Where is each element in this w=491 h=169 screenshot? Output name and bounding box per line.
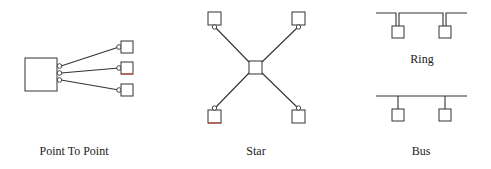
- star-hub: [249, 61, 262, 74]
- star-endpoint-top-left: [208, 12, 221, 25]
- star-link: [262, 27, 298, 62]
- link-bottom: [61, 80, 119, 90]
- bus-node: [439, 109, 451, 121]
- star-link: [215, 27, 249, 62]
- port-icon: [296, 106, 300, 110]
- star-endpoint-top-right: [292, 12, 305, 25]
- port-icon: [57, 71, 62, 76]
- link-top: [61, 47, 119, 66]
- point-to-point-topology: Point To Point: [25, 41, 133, 158]
- bus-label: Bus: [412, 144, 431, 158]
- port-icon: [212, 106, 216, 110]
- star-endpoint-bottom-left: [208, 110, 221, 123]
- topology-diagram: Point To Point Star Ring Bus: [0, 0, 491, 169]
- port-icon: [296, 25, 300, 29]
- bus-topology: Bus: [376, 96, 467, 158]
- star-topology: Star: [208, 12, 305, 158]
- link-middle: [61, 68, 119, 73]
- bus-node: [392, 109, 404, 121]
- star-label: Star: [246, 144, 265, 158]
- port-icon: [57, 64, 62, 69]
- point-to-point-label: Point To Point: [40, 144, 110, 158]
- port-icon: [57, 78, 62, 83]
- star-link: [262, 73, 298, 108]
- port-icon: [212, 25, 216, 29]
- ring-label: Ring: [410, 52, 433, 66]
- ring-node: [392, 26, 404, 38]
- endpoint-node: [121, 41, 133, 53]
- star-link: [215, 73, 249, 108]
- hub-node: [25, 58, 57, 91]
- endpoint-node: [121, 62, 133, 74]
- star-endpoint-bottom-right: [292, 110, 305, 123]
- ring-topology: Ring: [376, 13, 467, 66]
- endpoint-node: [121, 84, 133, 96]
- ring-node: [439, 26, 451, 38]
